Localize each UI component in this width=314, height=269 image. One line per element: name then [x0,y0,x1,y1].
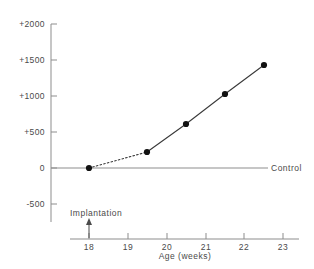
y-tick-label: +1500 [0,56,45,65]
y-tick-label: +500 [0,128,45,137]
x-tick-label: 19 [123,243,133,252]
implantation-arrow [86,218,92,238]
data-point [183,121,189,127]
x-tick-label: 18 [84,243,94,252]
y-tick-label: +1000 [0,92,45,101]
series-segment-solid [147,65,264,152]
data-point [261,62,267,68]
y-tick-label: +2000 [0,20,45,29]
y-tick-label: 0 [0,164,45,173]
x-tick-label: 22 [239,243,249,252]
y-axis-ticks [51,24,57,204]
control-series-label: Control [271,164,302,173]
implantation-annotation-label: Implantation [70,209,122,218]
x-tick-label: 23 [278,243,288,252]
data-point [86,165,92,171]
data-point [222,91,228,97]
y-tick-label: -500 [0,200,45,209]
x-axis-title: Age (weeks) [159,252,212,261]
chart-figure: +2000 +1500 +1000 +500 0 -500 18 19 20 2… [0,0,314,269]
data-point [144,149,150,155]
chart-plot-area [0,0,314,269]
x-axis-ticks [89,233,283,239]
series-markers [86,62,267,171]
series-segment-dotted [89,152,147,168]
